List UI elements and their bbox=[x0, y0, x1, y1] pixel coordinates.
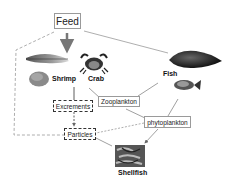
fish-large-icon bbox=[169, 51, 222, 68]
feed-label: Feed bbox=[56, 16, 79, 27]
particles-label: Particles bbox=[68, 131, 93, 138]
edge-zooplankton-to-fish bbox=[138, 83, 158, 96]
shellfish-label: Shellfish bbox=[118, 169, 147, 176]
shrimp-icon bbox=[26, 54, 69, 63]
edge-phytoplankton-to-fish bbox=[168, 99, 178, 116]
zooplankton-label: Zooplankton bbox=[101, 98, 137, 105]
excrements-box: Excrements bbox=[53, 100, 93, 112]
food-web-diagram bbox=[0, 0, 244, 185]
edge-zooplankton-to-phytoplankton bbox=[126, 109, 145, 118]
feed-box: Feed bbox=[54, 13, 81, 29]
excrements-label: Excrements bbox=[56, 103, 90, 110]
particles-box: Particles bbox=[64, 128, 96, 140]
shrimp-label: Shrimp bbox=[52, 75, 76, 82]
edge-phytoplankton-to-shellfish bbox=[145, 129, 158, 143]
zooplankton-box: Zooplankton bbox=[98, 96, 140, 107]
edges bbox=[14, 31, 178, 146]
shellfish-blob-icon bbox=[29, 72, 49, 87]
shellfish-icon bbox=[115, 145, 145, 167]
edge-feed-to-fish bbox=[84, 31, 168, 53]
fish-label: Fish bbox=[163, 70, 177, 77]
crab-icon bbox=[80, 54, 108, 74]
phytoplankton-box: phytoplankton bbox=[144, 116, 191, 128]
edge-particles-to-shellfish bbox=[96, 138, 112, 146]
phytoplankton-label: phytoplankton bbox=[147, 119, 187, 126]
crab-label: Crab bbox=[88, 75, 104, 82]
fish-small-icon bbox=[174, 80, 201, 90]
edge-phytoplankton-to-particles bbox=[96, 123, 144, 133]
